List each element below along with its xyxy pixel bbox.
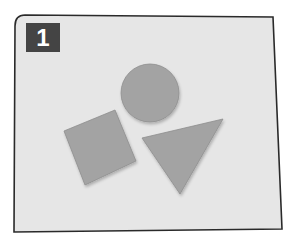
badge-label: 1 xyxy=(36,24,49,51)
circle-shape xyxy=(121,64,179,122)
photo-card: 1 xyxy=(0,0,292,241)
number-badge: 1 xyxy=(26,23,60,52)
